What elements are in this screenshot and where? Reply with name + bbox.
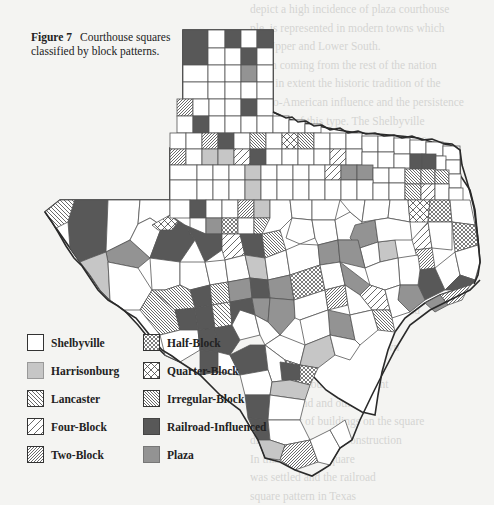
legend-item-irregular-block: Irregular-Block [143, 390, 244, 407]
harrisonburg-swatch-icon [27, 362, 44, 379]
legend-item-half-block: Half-Block [143, 334, 221, 351]
four-block-swatch-icon [27, 418, 44, 435]
legend-label: Half-Block [167, 337, 221, 349]
railroad-influenced-swatch-icon [143, 418, 160, 435]
legend-item-shelbyville: Shelbyville [27, 334, 105, 351]
plaza-swatch-icon [143, 446, 160, 463]
legend-item-railroad-influenced: Railroad-Influenced [143, 418, 266, 435]
shelbyville-swatch-icon [27, 334, 44, 351]
legend-label: Quarter-Block [167, 365, 239, 377]
legend-label: Railroad-Influenced [167, 421, 266, 433]
west-central-counties [170, 165, 463, 204]
legend-item-two-block: Two-Block [27, 446, 104, 463]
legend-label: Plaza [167, 449, 194, 461]
legend-item-quarter-block: Quarter-Block [143, 362, 239, 379]
legend-label: Lancaster [51, 393, 100, 405]
legend-item-lancaster: Lancaster [27, 390, 100, 407]
irregular-block-swatch-icon [143, 390, 160, 407]
legend-label: Irregular-Block [167, 393, 244, 405]
half-block-swatch-icon [143, 334, 160, 351]
legend-label: Harrisonburg [51, 365, 119, 377]
legend-item-plaza: Plaza [143, 446, 194, 463]
quarter-block-swatch-icon [143, 362, 160, 379]
lancaster-swatch-icon [27, 390, 44, 407]
panhandle-counties [170, 30, 273, 165]
legend-item-four-block: Four-Block [27, 418, 107, 435]
legend-item-harrisonburg: Harrisonburg [27, 362, 119, 379]
legend-label: Two-Block [51, 449, 104, 461]
legend-label: Four-Block [51, 421, 107, 433]
two-block-swatch-icon [27, 446, 44, 463]
legend-label: Shelbyville [51, 337, 105, 349]
